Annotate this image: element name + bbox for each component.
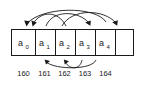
arrowhead-above-to-a0-outer [24, 21, 30, 27]
array-box [12, 30, 134, 56]
address-label-1: 161 [38, 69, 51, 78]
cell-3-base: a [79, 38, 84, 48]
cell-4-subscript: 4 [107, 44, 111, 50]
arrow-below-from-a3-to-a1 [46, 60, 96, 68]
arrows-below-group [45, 60, 96, 68]
cell-0-subscript: 0 [26, 44, 30, 50]
cell-3-subscript: 3 [87, 44, 91, 50]
address-label-4: 164 [99, 69, 112, 78]
array-cell-3: a 3 [79, 38, 91, 50]
array-cell-2: a 2 [59, 38, 71, 50]
arrowhead-above-to-a3 [85, 20, 91, 25]
cell-4-base: a [99, 38, 104, 48]
address-labels: 160 161 162 163 164 [17, 69, 112, 78]
address-label-2: 162 [58, 69, 71, 78]
cell-1-base: a [39, 38, 44, 48]
arrows-above-group [24, 10, 118, 26]
array-cell-0: a 0 [18, 38, 30, 50]
cell-2-base: a [59, 38, 64, 48]
array-permutation-diagram: a 0 a 1 a 2 a 3 a 4 [0, 0, 144, 86]
array-cell-1: a 1 [39, 38, 51, 50]
cell-1-subscript: 1 [47, 44, 51, 50]
arrowhead-above-to-a4 [112, 20, 118, 26]
array-cell-4: a 4 [99, 38, 111, 50]
address-label-0: 160 [17, 69, 30, 78]
array-cell-labels: a 0 a 1 a 2 a 3 a 4 [18, 38, 111, 50]
cell-0-base: a [18, 38, 23, 48]
cell-2-subscript: 2 [67, 44, 71, 50]
address-label-3: 163 [79, 69, 92, 78]
arrowhead-above-to-a0-inner [31, 20, 36, 26]
diagram-canvas: a 0 a 1 a 2 a 3 a 4 [0, 0, 144, 86]
